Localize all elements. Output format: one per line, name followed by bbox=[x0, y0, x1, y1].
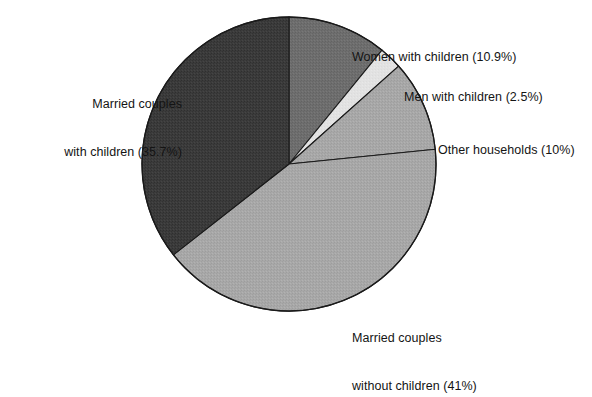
pie-label-line-1: Other households (10%) bbox=[438, 142, 592, 158]
pie-label-line-2: without children (41%) bbox=[352, 378, 562, 394]
pie-label-line-1: Married couples bbox=[18, 96, 182, 112]
pie-label-married-couples-with-children: Married couples with children (35.7%) bbox=[18, 64, 182, 192]
pie-label-other-households: Other households (10%) bbox=[438, 110, 592, 190]
pie-label-married-couples-without-children: Married couples without children (41%) bbox=[352, 298, 562, 397]
pie-label-line-1: Married couples bbox=[352, 330, 562, 346]
pie-label-line-1: Men with children (2.5%) bbox=[404, 89, 592, 105]
pie-label-line-2: with children (35.7%) bbox=[18, 144, 182, 160]
